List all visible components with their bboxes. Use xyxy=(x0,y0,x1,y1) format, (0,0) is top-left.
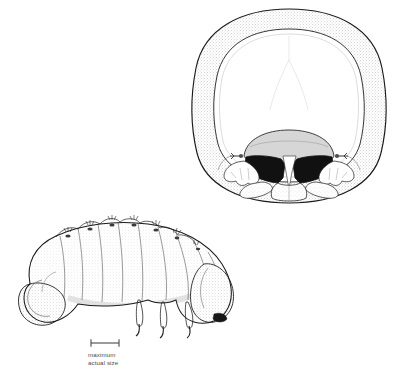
larva-habitus-figure xyxy=(8,206,252,342)
scale-indicator: maximum actual size xyxy=(88,337,158,371)
head-capsule-figure xyxy=(186,6,392,208)
labium xyxy=(271,183,307,201)
illustration-plate: maximum actual size xyxy=(0,0,394,389)
scale-caption-line-1: maximum xyxy=(88,351,158,359)
scale-caption-line-2: actual size xyxy=(88,359,158,367)
scale-bar-icon xyxy=(88,337,128,349)
